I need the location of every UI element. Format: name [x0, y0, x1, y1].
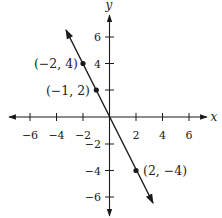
y-tick-label: −4 [85, 165, 101, 178]
point-label: (−1, 2) [46, 83, 90, 98]
x-tick-label: −4 [48, 129, 64, 142]
x-tick-label: 2 [133, 129, 140, 142]
coordinate-plane: −6 −4 −2 2 4 6 6 4 −2 −4 −6 x y (−2, 4) … [0, 0, 222, 218]
point-2-neg4 [133, 168, 138, 173]
point-label: (−2, 4) [34, 56, 78, 71]
x-tick-label: 6 [186, 129, 193, 142]
x-tick-label: 4 [159, 129, 166, 142]
x-axis-label: x [211, 110, 218, 124]
y-tick-label: 6 [94, 31, 101, 44]
point-neg2-4 [80, 61, 85, 66]
y-tick-label: 4 [94, 58, 101, 71]
y-tick-label: −6 [85, 191, 101, 204]
y-tick-label: −2 [85, 138, 101, 151]
x-tick-label: −6 [22, 129, 38, 142]
point-neg1-2 [94, 87, 99, 92]
point-label: (2, −4) [143, 163, 187, 178]
y-axis-label: y [105, 0, 113, 12]
x-tick-labels: −6 −4 −2 2 4 6 [22, 129, 193, 142]
